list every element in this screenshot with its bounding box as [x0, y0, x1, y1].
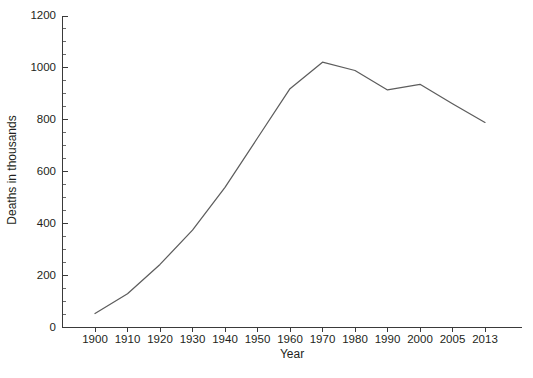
y-tick-label: 800: [37, 113, 56, 125]
x-tick-label: 1990: [375, 333, 401, 345]
x-tick-label: 1980: [342, 333, 368, 345]
y-tick-label: 600: [37, 165, 56, 177]
y-axis-major-ticks: [63, 16, 69, 328]
x-tick-label: 1940: [212, 333, 238, 345]
line-chart: 020040060080010001200 190019101920193019…: [0, 0, 533, 378]
y-tick-label: 400: [37, 217, 56, 229]
x-tick-label: 1930: [180, 333, 206, 345]
x-axis-ticks: [95, 328, 485, 333]
y-tick-label: 0: [50, 321, 56, 333]
y-axis-title: Deaths in thousands: [5, 115, 19, 224]
x-tick-label: 1950: [245, 333, 271, 345]
x-tick-label: 1960: [277, 333, 303, 345]
y-tick-label: 1200: [30, 9, 56, 21]
chart-container: 020040060080010001200 190019101920193019…: [0, 0, 533, 378]
x-tick-label: 2000: [407, 333, 433, 345]
x-axis-tick-labels: 1900191019201930194019501960197019801990…: [82, 333, 498, 345]
y-tick-label: 1000: [30, 61, 56, 73]
x-tick-label: 1970: [310, 333, 336, 345]
data-series-line: [95, 62, 485, 313]
x-axis-title: Year: [280, 347, 304, 361]
x-tick-label: 1910: [115, 333, 141, 345]
x-tick-label: 2013: [472, 333, 498, 345]
x-tick-label: 1900: [82, 333, 108, 345]
y-axis-tick-labels: 020040060080010001200: [30, 9, 56, 333]
y-tick-label: 200: [37, 269, 56, 281]
plot-area: 020040060080010001200 190019101920193019…: [30, 9, 522, 345]
x-tick-label: 1920: [147, 333, 173, 345]
x-tick-label: 2005: [440, 333, 466, 345]
